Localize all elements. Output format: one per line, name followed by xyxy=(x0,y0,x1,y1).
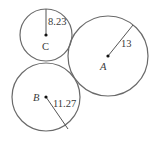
circle-a-center-point xyxy=(106,54,109,57)
circle-a-label: A xyxy=(99,61,107,72)
circle-c-radius-label: 8.23 xyxy=(48,16,66,27)
circle-c-center-point xyxy=(44,33,47,36)
circle-a-group: 13 A xyxy=(68,16,148,96)
circle-b-label: B xyxy=(33,92,40,103)
circle-b-center-point xyxy=(44,95,47,98)
tangent-circles-diagram: 8.23 C 13 A 11.27 B xyxy=(0,0,157,143)
circle-c-label: C xyxy=(42,41,49,52)
circle-a-radius-label: 13 xyxy=(121,38,132,49)
circle-b-group: 11.27 B xyxy=(12,63,80,131)
circle-b-radius-label: 11.27 xyxy=(53,98,76,109)
circle-c-group: 8.23 C xyxy=(20,9,72,61)
